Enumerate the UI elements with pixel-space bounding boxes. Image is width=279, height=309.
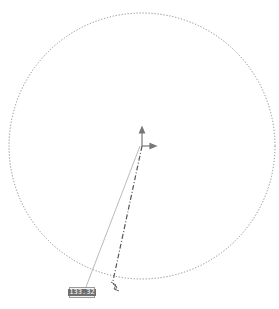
sketch-canvas[interactable]	[0, 0, 279, 309]
dimension-value: 133.32	[68, 289, 95, 296]
radius-line[interactable]	[113, 146, 142, 281]
origin-axes-icon	[140, 127, 157, 149]
drag-handle-icon[interactable]	[111, 282, 119, 291]
leader-line	[86, 146, 140, 287]
dimension-label[interactable]: 133.32	[69, 287, 95, 298]
